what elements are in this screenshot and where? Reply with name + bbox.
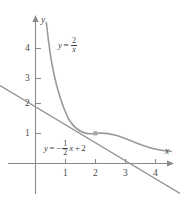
line-eq-plus: + <box>75 144 80 153</box>
curve-eq-fraction: 2 x <box>71 37 77 54</box>
y-axis-arrowhead <box>32 15 38 22</box>
line-eq-lhs: y <box>44 144 48 153</box>
y-tick-label-3: 3 <box>25 74 30 84</box>
line-eq-equals: = <box>50 144 55 153</box>
curve-equation-label: y = 2 x <box>58 37 78 54</box>
x-tick-label-3: 3 <box>123 169 128 179</box>
line-eq-variable: x <box>69 144 73 153</box>
line-eq-denominator: 2 <box>62 149 68 157</box>
y-tick-label-1: 1 <box>25 129 30 139</box>
y-axis-label: y <box>41 16 45 26</box>
x-tick-label-2: 2 <box>93 169 98 179</box>
x-axis-arrowhead <box>167 160 174 166</box>
line-equation-label: y = − 1 2 x + 2 <box>44 140 86 157</box>
curve-eq-denominator: x <box>71 46 77 54</box>
curve-eq-lhs: y <box>58 41 62 50</box>
y-tick-label-2: 2 <box>25 99 30 109</box>
line-eq-sign: − <box>56 144 61 153</box>
x-tick-label-1: 1 <box>63 169 68 179</box>
curve-eq-equals: = <box>64 41 69 50</box>
x-axis-label: x <box>165 147 169 157</box>
y-tick-label-4: 4 <box>25 44 30 54</box>
line-eq-fraction: 1 2 <box>62 140 68 157</box>
graph-figure: y x 4 3 2 1 1 2 3 4 y = 2 x y = − 1 2 x … <box>0 0 180 198</box>
tangency-point-marker <box>93 131 97 135</box>
x-tick-label-4: 4 <box>153 169 158 179</box>
line-eq-constant: 2 <box>81 144 86 153</box>
